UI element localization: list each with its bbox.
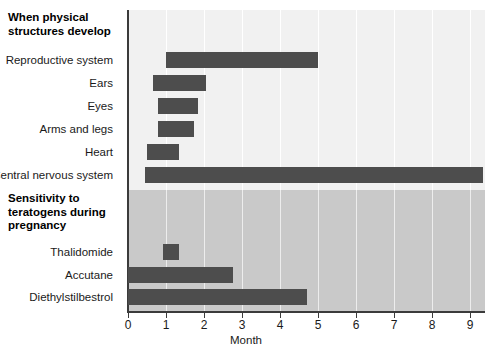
- section-heading-line-1: Sensitivity to: [8, 192, 80, 204]
- gridline-month-4: [280, 10, 281, 190]
- gridline-month-5: [318, 10, 319, 190]
- x-tick-label-6: 6: [344, 318, 368, 332]
- category-label-heart: Heart: [85, 146, 113, 159]
- section-heading-line-2: teratogens during: [8, 206, 106, 218]
- section-heading-physical-structures: When physical structures develop: [8, 11, 120, 38]
- section-heading-line-1: When physical: [8, 11, 89, 23]
- gridline-month-2: [204, 10, 205, 190]
- gridline-month-7: [394, 10, 395, 190]
- category-label-reproductive-system: Reproductive system: [6, 54, 113, 67]
- x-tick-label-1: 1: [154, 318, 178, 332]
- x-tick-label-8: 8: [420, 318, 444, 332]
- gestational-development-chart: When physical structures develop Sensiti…: [0, 0, 492, 352]
- x-tick-label-3: 3: [230, 318, 254, 332]
- bar-eyes: [158, 98, 199, 114]
- x-tick-label-5: 5: [306, 318, 330, 332]
- bar-accutane: [128, 267, 233, 283]
- bar-central-nervous-system: [145, 167, 483, 183]
- bar-thalidomide: [163, 244, 179, 260]
- category-label-eyes: Eyes: [87, 100, 113, 113]
- category-label-central-nervous-system: Central nervous system: [0, 169, 113, 182]
- gridline-month-6: [356, 190, 357, 312]
- bar-diethylstilbestrol: [128, 289, 307, 305]
- x-tick-label-4: 4: [268, 318, 292, 332]
- x-tick-label-2: 2: [192, 318, 216, 332]
- section-heading-line-2: structures develop: [8, 25, 111, 37]
- gridline-month-7: [394, 190, 395, 312]
- category-label-ears: Ears: [89, 77, 113, 90]
- gridline-month-3: [242, 10, 243, 190]
- category-label-diethylstilbestrol: Diethylstilbestrol: [29, 291, 113, 304]
- category-label-thalidomide: Thalidomide: [50, 246, 113, 259]
- gridline-month-9: [470, 190, 471, 312]
- bar-heart: [147, 144, 179, 160]
- x-tick-label-0: 0: [116, 318, 140, 332]
- gridline-month-9: [470, 10, 471, 190]
- section-heading-teratogen-sensitivity: Sensitivity to teratogens during pregnan…: [8, 192, 120, 233]
- category-label-accutane: Accutane: [65, 269, 113, 282]
- x-tick-label-7: 7: [382, 318, 406, 332]
- bar-reproductive-system: [166, 52, 318, 68]
- x-axis-title: Month: [0, 334, 492, 346]
- bar-arms-and-legs: [158, 121, 195, 137]
- gridline-month-5: [318, 190, 319, 312]
- gridline-month-8: [432, 10, 433, 190]
- x-tick-label-9: 9: [458, 318, 482, 332]
- category-label-arms-and-legs: Arms and legs: [39, 123, 113, 136]
- section-heading-line-3: pregnancy: [8, 219, 66, 231]
- gridline-month-6: [356, 10, 357, 190]
- gridline-month-8: [432, 190, 433, 312]
- bar-ears: [153, 75, 206, 91]
